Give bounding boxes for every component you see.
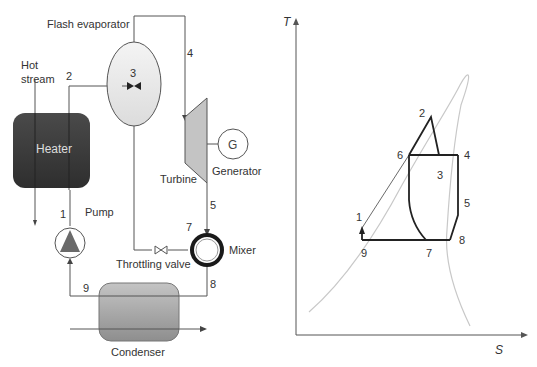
diagram-canvas: Flash evaporator Hot stream Heater Pump … <box>0 0 537 367</box>
pump-heating-line <box>362 155 409 228</box>
hot-stream-arrow-icon <box>33 220 37 226</box>
state-4-label: 4 <box>187 47 193 59</box>
generator-symbol: G <box>228 138 237 152</box>
saturation-curve <box>309 75 470 326</box>
throttling-valve-icon <box>155 246 167 254</box>
condenser-block <box>99 283 179 341</box>
s-axis-arrow-icon <box>521 332 528 338</box>
throttling-valve-label: Throttling valve <box>116 258 191 270</box>
turbine-body <box>185 98 207 183</box>
ts-point-5: 5 <box>464 197 470 209</box>
ts-point-9: 9 <box>361 247 367 259</box>
arrow-into-pump-icon <box>67 258 73 264</box>
mixer-label: Mixer <box>229 244 256 256</box>
state-7-label: 7 <box>186 221 192 233</box>
state-8-label: 8 <box>210 278 216 290</box>
state-2-label: 2 <box>66 70 72 82</box>
cooling-arrow-icon <box>200 326 207 332</box>
generator-label: Generator <box>212 165 262 177</box>
flash-evaporator-label: Flash evaporator <box>47 18 130 30</box>
heater-label: Heater <box>36 142 72 156</box>
turbine-label: Turbine <box>160 173 197 185</box>
hot-stream-label-line2: stream <box>21 73 55 85</box>
state-1-label: 1 <box>60 208 66 220</box>
ts-point-6: 6 <box>397 149 403 161</box>
expansion-4-5-8 <box>450 155 458 240</box>
hot-stream-label-line1: Hot <box>21 59 38 71</box>
state-5-label: 5 <box>210 199 216 211</box>
s-axis-label: S <box>495 343 503 357</box>
line-flash-to-valve <box>134 125 152 250</box>
ts-point-3: 3 <box>437 169 443 181</box>
ts-diagram: T S 2 6 4 3 5 1 8 9 7 <box>283 15 528 357</box>
t-axis-arrow-icon <box>293 18 299 25</box>
t-axis-label: T <box>283 15 292 29</box>
heater-path-6-2-3 <box>409 117 439 155</box>
ts-point-7: 7 <box>426 247 432 259</box>
state-3-label: 3 <box>130 67 136 79</box>
ts-point-4: 4 <box>464 149 470 161</box>
ts-point-2: 2 <box>419 107 425 119</box>
ts-point-1: 1 <box>356 211 362 223</box>
ts-point-8: 8 <box>459 234 465 246</box>
condenser-label: Condenser <box>111 346 165 358</box>
pump-label: Pump <box>85 206 114 218</box>
flash-evaporator-vessel <box>107 42 161 126</box>
state-9-label: 9 <box>83 282 89 294</box>
